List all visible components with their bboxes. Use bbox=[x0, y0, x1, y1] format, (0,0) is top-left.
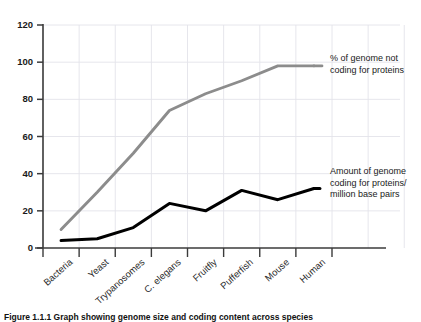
y-axis-tick-label: 120 bbox=[17, 19, 33, 30]
x-axis-tick-label: Mouse bbox=[263, 256, 292, 283]
figure-caption: Figure 1.1.1 Graph showing genome size a… bbox=[4, 312, 419, 322]
x-axis-tick-label: Fruitfly bbox=[190, 256, 219, 283]
y-axis-tick-label: 40 bbox=[22, 168, 33, 179]
x-axis-tick-label: Human bbox=[297, 256, 327, 285]
x-axis-tick-label: Pufferfish bbox=[218, 256, 255, 291]
data-series-group bbox=[61, 66, 322, 241]
y-axis-tick-label: 20 bbox=[22, 205, 33, 216]
y-axis-labels: 020406080100120 bbox=[17, 19, 33, 253]
series-label-noncoding: % of genome not coding for proteins bbox=[330, 53, 420, 76]
x-axis-tick-label: Yeast bbox=[86, 256, 111, 280]
y-axis-ticks bbox=[37, 25, 43, 248]
y-axis-tick-label: 100 bbox=[17, 56, 33, 67]
line-chart-svg: BacteriaYeastTrypanosomesC. elegansFruit… bbox=[0, 0, 421, 322]
y-axis-tick-label: 0 bbox=[28, 242, 33, 253]
y-axis-tick-label: 80 bbox=[22, 93, 33, 104]
chart-plot-area: BacteriaYeastTrypanosomesC. elegansFruit… bbox=[0, 0, 421, 322]
x-axis-ticks bbox=[43, 248, 332, 257]
x-axis-tick-label: C. elegans bbox=[142, 256, 183, 295]
y-axis-tick-label: 60 bbox=[22, 131, 33, 142]
series-label-coding: Amount of genome coding for proteins/ mi… bbox=[330, 166, 421, 201]
x-axis-tick-label: Bacteria bbox=[41, 256, 75, 288]
x-axis-labels: BacteriaYeastTrypanosomesC. elegansFruit… bbox=[41, 256, 327, 306]
figure-container: BacteriaYeastTrypanosomesC. elegansFruit… bbox=[0, 0, 421, 322]
